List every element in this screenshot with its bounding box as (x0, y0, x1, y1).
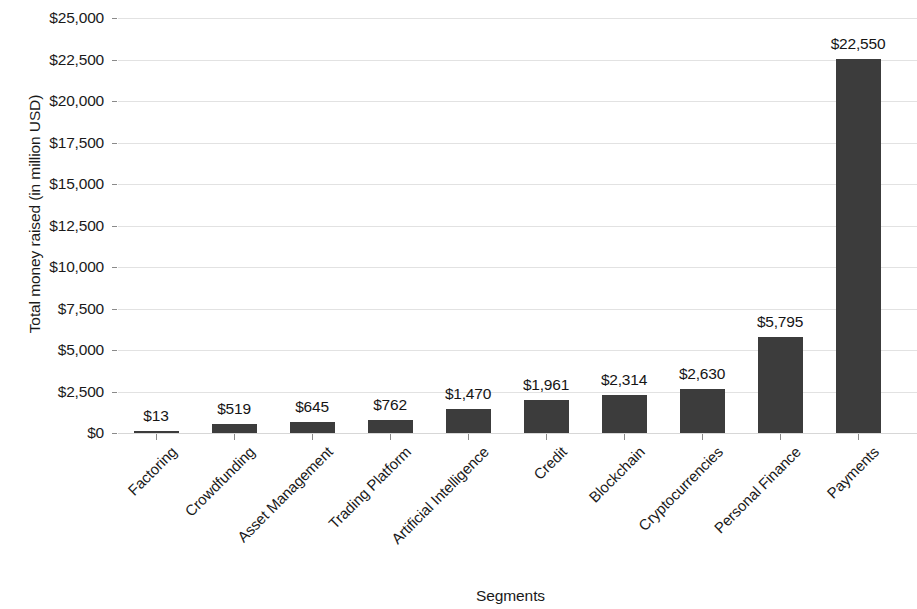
x-axis-category-label: Factoring (124, 443, 180, 499)
y-axis-tick-label: $22,500 (0, 51, 104, 69)
bar-chart: Total money raised (in million USD) $25,… (0, 0, 917, 609)
y-axis-tick-label: $10,000 (0, 258, 104, 276)
y-axis-tick-label: $25,000 (0, 9, 104, 27)
x-axis-tick-mark (312, 434, 313, 440)
bar (212, 424, 257, 433)
bar (368, 420, 413, 433)
x-axis-category-label: Personal Finance (711, 443, 804, 536)
x-axis-tick-mark (624, 434, 625, 440)
x-axis-title: Segments (0, 587, 917, 605)
x-axis-category-label: Trading Platform (325, 443, 414, 532)
x-axis-tick-mark (546, 434, 547, 440)
bar-value-label: $13 (143, 407, 168, 425)
x-axis-tick-mark (234, 434, 235, 440)
gridline (118, 309, 917, 310)
x-axis-category-label: Crowdfunding (181, 443, 258, 520)
y-axis-tick-label: $7,500 (0, 300, 104, 318)
y-axis-tick-mark (112, 60, 117, 61)
y-axis-tick-label: $17,500 (0, 134, 104, 152)
y-axis-tick-mark (112, 267, 117, 268)
x-axis-tick-mark (780, 434, 781, 440)
y-axis-tick-label: $5,000 (0, 341, 104, 359)
bar-value-label: $2,314 (601, 371, 647, 389)
x-axis-category-label: Payments (823, 443, 882, 502)
bar (290, 422, 335, 433)
bar (602, 395, 647, 433)
y-axis-tick-label: $0 (0, 424, 104, 442)
x-axis-tick-mark (858, 434, 859, 440)
y-axis-tick-mark (112, 433, 117, 434)
y-axis-tick-mark (112, 184, 117, 185)
y-axis-tick-mark (112, 309, 117, 310)
gridline (118, 18, 917, 19)
x-axis-tick-mark (156, 434, 157, 440)
gridline (118, 226, 917, 227)
gridline (118, 184, 917, 185)
x-axis-category-label: Blockchain (585, 443, 648, 506)
gridline (118, 60, 917, 61)
y-axis-tick-mark (112, 226, 117, 227)
x-axis-category-label: Cryptocurrencies (635, 443, 726, 534)
x-axis-tick-mark (390, 434, 391, 440)
y-axis-tick-label: $15,000 (0, 175, 104, 193)
y-axis-tick-label: $20,000 (0, 92, 104, 110)
x-axis-tick-mark (468, 434, 469, 440)
x-axis-category-label: Credit (530, 443, 570, 483)
y-axis-tick-mark (112, 350, 117, 351)
x-axis-tick-mark (702, 434, 703, 440)
bar-value-label: $2,630 (679, 365, 725, 383)
y-axis-tick-label: $12,500 (0, 217, 104, 235)
gridline (118, 433, 917, 434)
y-axis-tick-mark (112, 18, 117, 19)
gridline (118, 101, 917, 102)
gridline (118, 267, 917, 268)
gridline (118, 143, 917, 144)
y-axis-tick-mark (112, 101, 117, 102)
y-axis-tick-mark (112, 392, 117, 393)
y-axis-tick-mark (112, 143, 117, 144)
y-axis-tick-label: $2,500 (0, 383, 104, 401)
bar (134, 431, 179, 433)
bar-value-label: $22,550 (831, 35, 886, 53)
bar-value-label: $5,795 (757, 313, 803, 331)
